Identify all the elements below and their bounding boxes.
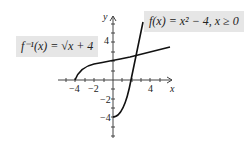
y-tick-label: −2	[100, 94, 111, 105]
f-label: f(x) = x² − 4, x ≥ 0	[144, 11, 244, 32]
y-tick-label: −4	[100, 112, 111, 123]
x-tick-label: −4	[69, 83, 80, 94]
x-tick-label: 4	[148, 83, 153, 94]
finv-label: f⁻¹(x) = √x + 4	[16, 36, 98, 57]
x-axis-label: x	[169, 83, 175, 94]
x-tick-label: −2	[88, 83, 99, 94]
chart: −4 −2 4 x 4 −2 −4 y f(x) = x² − 4, x ≥ 0…	[0, 0, 252, 148]
y-axis-label: y	[102, 11, 108, 22]
f-curve	[113, 22, 143, 117]
y-tick-label: 4	[104, 35, 109, 46]
